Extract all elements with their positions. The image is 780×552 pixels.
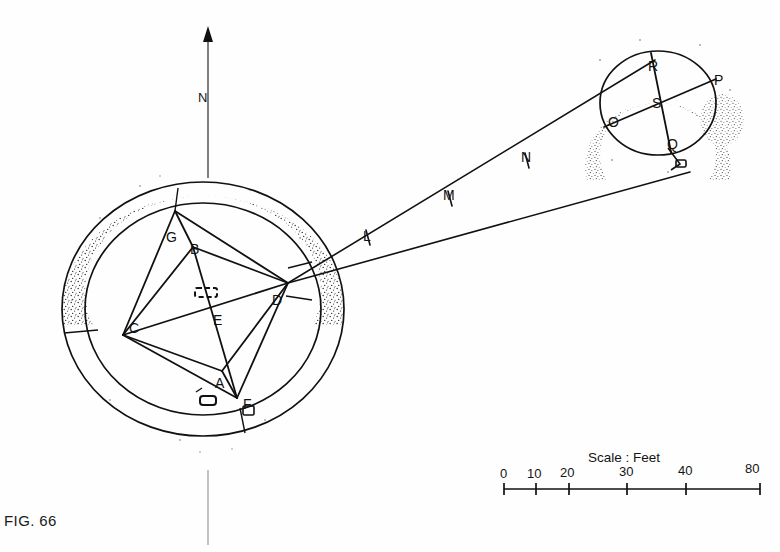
- station-label-f: F: [243, 397, 252, 411]
- station-label-p: P: [714, 73, 723, 87]
- station-label-g: G: [166, 230, 177, 244]
- station-label-n: N: [521, 150, 531, 164]
- station-label-m: M: [443, 188, 455, 202]
- north-label: N: [198, 90, 207, 105]
- scale-bar: [504, 483, 760, 495]
- station-label-s: S: [652, 96, 661, 110]
- station-label-d: D: [272, 293, 282, 307]
- scale-tick-40: 40: [678, 464, 692, 477]
- scale-tick-30: 30: [619, 465, 633, 478]
- station-label-a: A: [215, 376, 224, 390]
- station-label-r: R: [648, 59, 658, 73]
- survey-sight-lines: [288, 60, 690, 283]
- figure-caption: FIG. 66: [4, 512, 57, 529]
- station-label-c: C: [129, 321, 139, 335]
- scale-tick-0: 0: [500, 467, 507, 480]
- scale-tick-10: 10: [527, 467, 541, 480]
- station-label-q: Q: [667, 137, 678, 151]
- station-label-o: O: [608, 115, 619, 129]
- scale-tick-80: 80: [745, 462, 759, 475]
- large-circle-triangulation: [123, 211, 288, 398]
- station-label-b: B: [190, 242, 199, 256]
- scale-title: Scale : Feet: [588, 450, 660, 465]
- station-label-e: E: [213, 313, 222, 327]
- scale-tick-20: 20: [560, 466, 574, 479]
- survey-plan-drawing: [0, 0, 780, 552]
- station-label-l: L: [363, 229, 371, 243]
- figure-page: N A B C D E F G O P Q R S L M N Scale : …: [0, 0, 780, 552]
